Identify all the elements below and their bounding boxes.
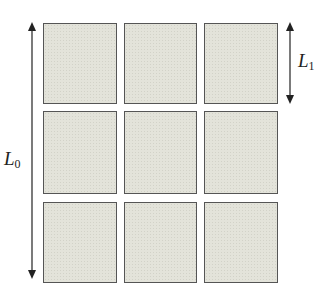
l0-label-sub: 0 (15, 157, 21, 171)
l1-arrow (286, 22, 294, 104)
l1-label-sub: 1 (309, 59, 315, 73)
l1-label: L1 (298, 50, 315, 74)
l0-arrow (28, 22, 36, 279)
dimension-arrows (0, 0, 321, 283)
l1-label-main: L (298, 50, 309, 71)
l0-label: L0 (4, 148, 21, 172)
l0-label-main: L (4, 148, 15, 169)
